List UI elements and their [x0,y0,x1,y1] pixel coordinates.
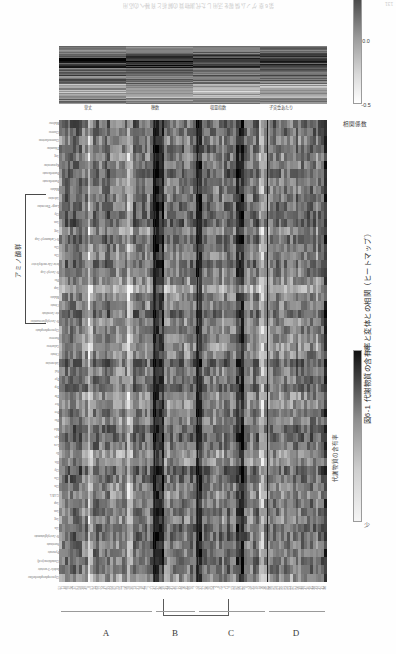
metabolite-column-label: GABA [50,493,59,496]
correlation-cell [59,54,126,55]
correlation-cell [126,100,193,101]
correlation-cell [260,76,327,77]
correlation-cell [59,98,126,99]
correlation-cell [193,73,260,74]
heatmap-cell [324,409,327,417]
correlation-cell [260,94,327,95]
correlation-cell [193,57,260,58]
correlation-cell [59,63,126,64]
correlation-cell [193,87,260,88]
correlation-cell [126,54,193,55]
correlation-cell [59,55,126,56]
metabolite-column-label: Glutathione(red) [37,559,59,562]
correlation-cell [59,76,126,77]
correlation-cell [126,86,193,87]
metabolite-column-label: Malate [50,295,59,298]
metabolite-column-label: Gluconolactone [38,138,59,141]
correlation-cell [260,49,327,50]
correlation-cell [260,75,327,76]
correlation-cell [193,68,260,69]
correlation-cell [126,84,193,85]
correlation-cell [260,51,327,52]
correlation-cell [260,72,327,73]
correlation-cell [260,65,327,66]
correlation-cell [126,103,193,104]
correlation-cell [59,51,126,52]
correlation-cell [260,54,327,55]
correlation-cell [126,90,193,91]
group-separator-line [154,120,155,582]
heatmap-cell [324,178,327,186]
correlation-cell [59,78,126,79]
correlation-cell [59,66,126,67]
correlation-cell [59,68,126,69]
heatmap-cell [324,491,327,499]
correlation-cell [126,79,193,80]
correlation-cell [126,78,193,79]
correlation-cell [126,72,193,73]
correlation-cell [59,64,126,65]
correlation-cell [59,48,126,49]
correlation-cell [126,75,193,76]
correlation-cell [260,92,327,93]
correlation-cell [260,68,327,69]
document-page: 第6章 ゲノム情報を活用した代謝物質の解析と育種への応用 131 Glycero… [0,0,396,654]
metabolite-column-label: Glycerophosphocholine [28,575,60,578]
correlation-cell [260,95,327,96]
heatmap-cell [324,516,327,524]
correlation-cell [59,85,126,86]
row-range-bracket [163,599,229,616]
correlation-cell [59,71,126,72]
correlation-cell [59,70,126,71]
heatmap-cell [324,285,327,293]
correlation-cell [260,78,327,79]
correlation-cell [193,99,260,100]
correlation-cell [126,62,193,63]
correlation-cell [59,84,126,85]
heatmap-cell [324,425,327,433]
heatmap-cell [324,566,327,574]
correlation-cell [193,55,260,56]
metabolite-column-label: Sucrose [49,336,59,339]
trait-row-label: 子実重あたり [269,106,293,110]
correlation-cell [59,67,126,68]
correlation-cell [59,69,126,70]
correlation-cell [59,91,126,92]
correlation-cell [59,80,126,81]
correlation-cell [260,77,327,78]
correlation-cell [59,102,126,103]
correlation-cell [260,84,327,85]
correlation-cell [126,59,193,60]
correlation-cell [193,79,260,80]
correlation-cell [126,66,193,67]
correlation-cell [260,86,327,87]
correlation-cell [260,96,327,97]
heatmap-cell [324,293,327,301]
correlation-cell [126,71,193,72]
group-letter-b: B [172,628,178,638]
correlation-cell [260,53,327,54]
correlation-cell [59,62,126,63]
correlation-cell [59,88,126,89]
correlation-cell [59,90,126,91]
correlation-cell [193,78,260,79]
correlation-cell [126,46,193,47]
heatmap-cell [324,401,327,409]
correlation-cell [59,101,126,102]
correlation-cell [260,90,327,91]
page-number: 131 [385,1,393,7]
correlation-cell [59,92,126,93]
correlation-cell [59,75,126,76]
correlation-cell [126,96,193,97]
group-letter-a: A [102,628,109,638]
heatmap-cell [324,533,327,541]
metabolite-column-label: Galactose [46,344,59,347]
heatmap-cell [324,557,327,565]
correlation-cell [126,67,193,68]
heatmap-cell [324,219,327,227]
correlation-cell [59,57,126,58]
correlation-cell [193,51,260,52]
correlation-cell [59,97,126,98]
correlation-cell [260,80,327,81]
column-labels-correlation [13,46,59,104]
